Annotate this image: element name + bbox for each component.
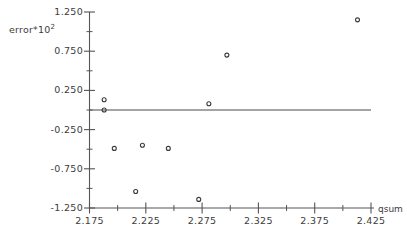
- y-axis-title: error*102: [9, 24, 55, 35]
- y-tick-label: -0.250: [51, 124, 83, 135]
- scatter-plot: -1.250-0.750-0.2500.2500.7501.2502.1752.…: [0, 0, 407, 232]
- y-tick-label: 0.750: [54, 45, 83, 56]
- x-tick-label: 2.175: [74, 215, 106, 226]
- x-tick-label: 2.375: [299, 215, 331, 226]
- y-tick-label: 1.250: [54, 6, 83, 17]
- y-tick-label: 0.250: [54, 84, 83, 95]
- plot-canvas: [0, 0, 407, 232]
- x-tick-label: 2.225: [130, 215, 162, 226]
- data-point: [207, 102, 211, 106]
- data-point: [197, 197, 201, 201]
- x-tick-label: 2.325: [242, 215, 274, 226]
- x-tick-label: 2.425: [355, 215, 387, 226]
- y-axis-title-base: error*10: [9, 24, 50, 35]
- data-point: [140, 143, 144, 147]
- x-axis-title: qsum: [378, 204, 403, 214]
- data-point: [166, 146, 170, 150]
- data-point: [225, 53, 229, 57]
- data-point: [355, 18, 359, 22]
- y-axis-title-exponent: 2: [50, 23, 55, 31]
- data-point: [112, 146, 116, 150]
- data-point: [134, 190, 138, 194]
- data-point: [102, 98, 106, 102]
- x-tick-label: 2.275: [186, 215, 218, 226]
- y-tick-label: -0.750: [51, 163, 83, 174]
- y-tick-label: -1.250: [51, 202, 83, 213]
